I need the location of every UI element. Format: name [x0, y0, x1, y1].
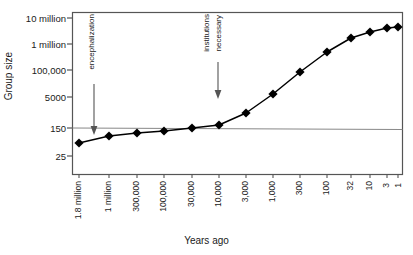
data-point-marker: [74, 138, 83, 147]
x-tick-text: 100,000: [159, 181, 168, 212]
x-tick-text: 1: [394, 183, 403, 188]
chart-figure: Group size 10 million 1 million 100,000 …: [0, 0, 413, 255]
x-axis-title: Years ago: [0, 236, 413, 246]
x-tick-label-3000: 3,000: [241, 181, 250, 235]
x-tick-text: 100: [322, 181, 331, 195]
data-point-marker: [365, 27, 374, 36]
data-point-marker: [104, 131, 113, 140]
x-tick-label-1-8-million: 1.8 million: [74, 181, 83, 235]
x-tick-text: 10: [365, 181, 374, 190]
x-tick-label-100000: 100,000: [159, 181, 168, 235]
x-tick-label-30000: 30,000: [187, 181, 196, 235]
x-tick-label-1-million: 1 million: [104, 181, 113, 235]
x-tick-label-1000: 1,000: [268, 181, 277, 235]
reference-line-150: [73, 128, 403, 130]
x-tick-text: 1 million: [104, 181, 113, 212]
x-tick-label-10000: 10,000: [214, 181, 223, 235]
data-point-marker: [346, 33, 355, 42]
institutions-necessary-arrow-icon: [215, 62, 222, 99]
x-tick-label-1: 1: [394, 181, 403, 235]
x-tick-text: 3,000: [241, 181, 250, 202]
x-tick-label-3: 3: [382, 181, 391, 235]
encephalization-arrow-icon: [91, 84, 98, 135]
data-point-marker: [132, 128, 141, 137]
data-point-marker: [241, 108, 250, 117]
x-tick-text: 1,000: [268, 181, 277, 202]
y-axis-ticks: [67, 18, 73, 156]
data-point-marker: [382, 23, 391, 32]
data-point-marker: [187, 123, 196, 132]
annotation-institutions-line1: institutions: [203, 14, 211, 52]
x-tick-label-10: 10: [365, 181, 374, 235]
x-tick-label-32: 32: [346, 181, 355, 235]
x-tick-text: 10,000: [214, 181, 223, 207]
x-tick-text: 30,000: [187, 181, 196, 207]
annotation-institutions-line2: necessary: [215, 15, 223, 51]
series-line-group-size: [79, 27, 398, 143]
annotation-institutions-necessary: institutions necessary: [203, 14, 223, 62]
x-tick-text: 1.8 million: [74, 181, 83, 219]
x-tick-text: 3: [382, 183, 391, 188]
annotation-encephalization: encephalization: [88, 14, 96, 84]
data-point-marker: [393, 22, 402, 31]
x-tick-text: 300,000: [132, 181, 141, 212]
x-tick-text: 300: [295, 181, 304, 195]
x-tick-label-300000: 300,000: [132, 181, 141, 235]
data-point-marker: [159, 126, 168, 135]
annotation-encephalization-text: encephalization: [88, 14, 96, 70]
x-tick-text: 32: [346, 181, 355, 190]
x-tick-label-100: 100: [322, 181, 331, 235]
x-tick-label-300: 300: [295, 181, 304, 235]
